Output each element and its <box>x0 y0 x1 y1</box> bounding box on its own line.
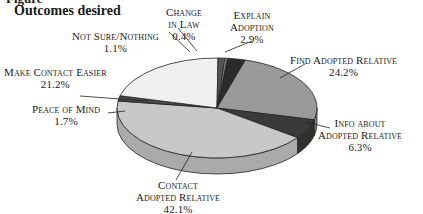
label-text: Find Adopted Relative <box>290 54 397 66</box>
label-percent: 2.9% <box>230 33 274 45</box>
label-text: Adoption <box>230 21 274 33</box>
label-text: Adopted Relative <box>136 191 220 203</box>
label-percent: 6.3% <box>318 141 402 153</box>
label-percent: 42.1% <box>136 203 220 214</box>
label-text: Info about <box>335 117 386 129</box>
label-text: in Law <box>168 18 199 30</box>
label-percent: 1.1% <box>72 42 159 54</box>
label-info-about-adopted-relative: Info about Adopted Relative 6.3% <box>318 117 402 153</box>
label-percent: 1.7% <box>32 115 100 127</box>
label-change-in-law: Change in Law 0.4% <box>166 6 202 42</box>
label-text: Not Sure/Nothing <box>72 30 159 42</box>
label-percent: 21.2% <box>4 78 107 90</box>
label-text: Change <box>166 6 202 18</box>
label-peace-of-mind: Peace of Mind 1.7% <box>32 103 100 127</box>
label-text: Contact <box>158 179 198 191</box>
label-text: Explain <box>234 9 271 21</box>
label-percent: 24.2% <box>290 66 397 78</box>
label-text: Adopted Relative <box>318 129 402 141</box>
label-explain-adoption: Explain Adoption 2.9% <box>230 9 274 45</box>
label-make-contact-easier: Make Contact Easier 21.2% <box>4 66 107 90</box>
label-not-sure: Not Sure/Nothing 1.1% <box>72 30 159 54</box>
label-percent: 0.4% <box>166 30 202 42</box>
label-text: Make Contact Easier <box>4 66 107 78</box>
label-find-adopted-relative: Find Adopted Relative 24.2% <box>290 54 397 78</box>
label-text: Peace of Mind <box>32 103 100 115</box>
label-contact-adopted-relative: Contact Adopted Relative 42.1% <box>136 179 220 214</box>
